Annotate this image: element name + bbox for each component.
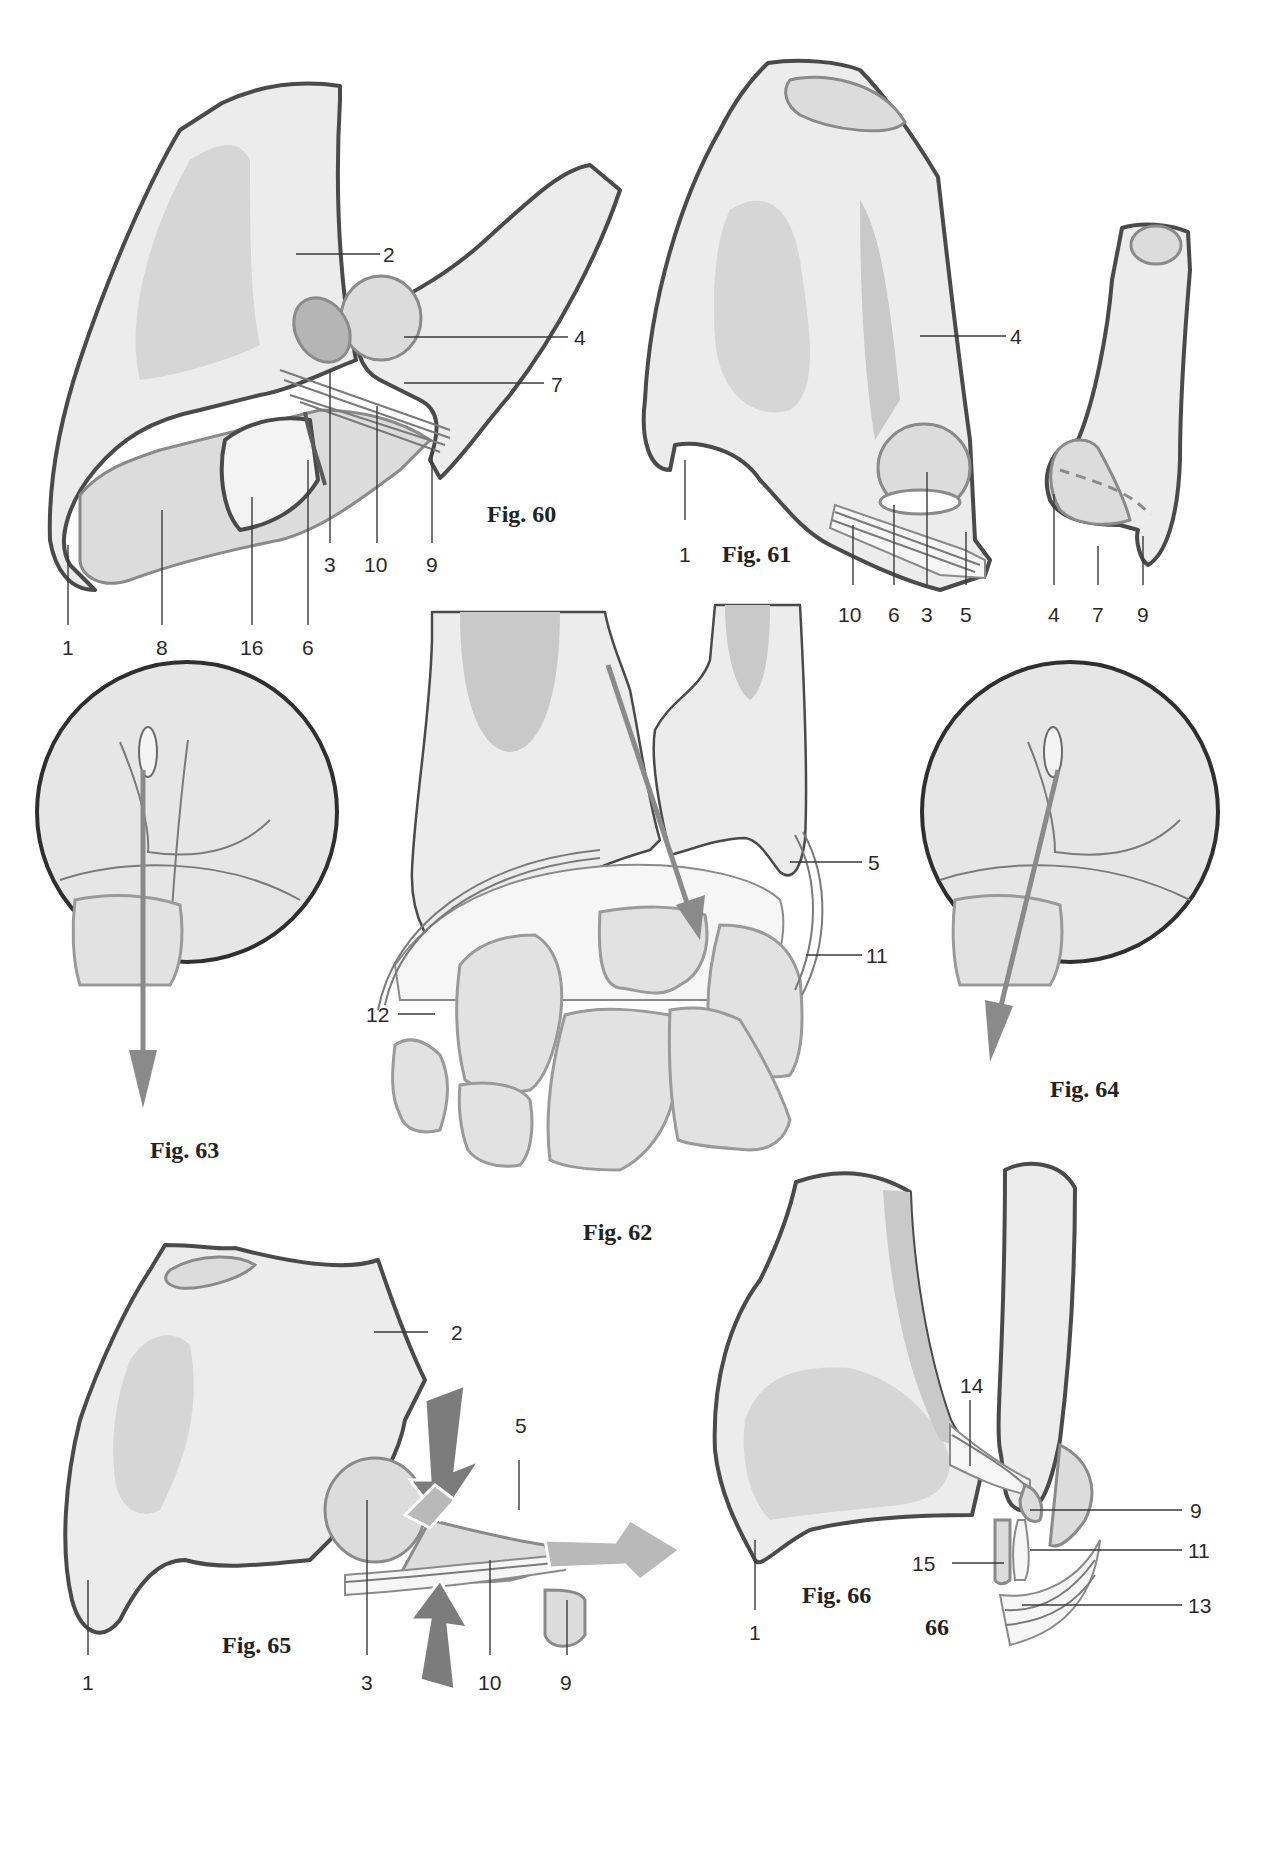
figure-64: Fig. 64: [922, 662, 1218, 1102]
fig64-force-arrow-head: [985, 1000, 1013, 1062]
fig61-caption: Fig. 61: [722, 541, 791, 567]
fig62-tarsal-bone: [459, 1083, 532, 1166]
fig66-label-11: 11: [1188, 1539, 1210, 1562]
fig65-compression-arrow-up: [410, 1580, 468, 1690]
fig64-tendon-loop: [1044, 727, 1062, 777]
fig61-label-4b: 4: [1048, 603, 1060, 626]
fig60-caption: Fig. 60: [487, 501, 556, 527]
fig66-label-14: 14: [960, 1374, 984, 1397]
fig65-label-9: 9: [560, 1671, 572, 1694]
fig61-fibula-medullary: [1131, 226, 1181, 264]
fig66-ligament-11: [1013, 1520, 1029, 1580]
page-number: 66: [925, 1614, 949, 1640]
fig62-tarsal-bone: [548, 1009, 677, 1170]
fig60-label-6: 6: [302, 636, 314, 659]
figure-66: 14 9 11 15 13 1 Fig. 66: [715, 1164, 1212, 1645]
figure-65: 2 5 1 3 10 9 Fig. 65: [65, 1245, 680, 1694]
fig65-label-3: 3: [361, 1671, 373, 1694]
fig65-label-1: 1: [82, 1671, 94, 1694]
fig60-label-1: 1: [62, 636, 74, 659]
fig62-tarsal-bone: [457, 935, 562, 1092]
fig66-tendon-15: [995, 1520, 1010, 1584]
figure-61: 4 1 10 6 3 5 4 7 9 Fig. 61: [644, 61, 1190, 626]
fig61-label-9: 9: [1137, 603, 1149, 626]
fig62-tarsal-bone: [393, 1040, 448, 1132]
figure-62: 5 11 12 Fig. 62: [366, 605, 888, 1245]
fig63-force-arrow-head: [129, 1050, 157, 1108]
fig61-label-7: 7: [1092, 603, 1104, 626]
fig66-label-1: 1: [749, 1621, 761, 1644]
fig65-label-10: 10: [478, 1671, 501, 1694]
fig60-lateral-malleolus-facet: [341, 276, 421, 360]
fig61-label-4: 4: [1010, 325, 1022, 348]
fig63-caption: Fig. 63: [150, 1137, 219, 1163]
fig65-label-5: 5: [515, 1414, 527, 1437]
fig66-caption: Fig. 66: [802, 1582, 871, 1608]
fig61-label-3: 3: [921, 603, 933, 626]
anatomy-plate: 2 4 7 3 10 9 1 8 16 6 Fig. 60: [0, 0, 1265, 1857]
fig62-label-12: 12: [366, 1003, 389, 1026]
fig66-label-13: 13: [1188, 1594, 1211, 1617]
fig63-tarsal-bone: [73, 895, 182, 985]
fig60-label-8: 8: [156, 636, 168, 659]
fig61-label-10: 10: [838, 603, 861, 626]
fig64-caption: Fig. 64: [1050, 1076, 1119, 1102]
fig65-malleolus: [545, 1590, 585, 1646]
fig60-label-3: 3: [324, 553, 336, 576]
fig62-label-11: 11: [866, 944, 888, 967]
figure-60: 2 4 7 3 10 9 1 8 16 6 Fig. 60: [50, 84, 620, 659]
fig61-facet-rim: [880, 490, 960, 514]
fig62-label-5: 5: [868, 851, 880, 874]
fig60-label-7: 7: [551, 373, 563, 396]
fig61-label-1: 1: [679, 543, 691, 566]
fig66-label-9: 9: [1190, 1499, 1202, 1522]
fig65-lateral-arrow: [545, 1520, 680, 1580]
fig65-label-2: 2: [451, 1321, 463, 1344]
fig62-caption: Fig. 62: [583, 1219, 652, 1245]
fig60-label-4: 4: [574, 326, 586, 349]
fig60-label-2: 2: [383, 243, 395, 266]
fig60-label-10: 10: [364, 553, 387, 576]
fig63-tendon-loop: [139, 727, 157, 777]
fig66-label-15: 15: [912, 1552, 935, 1575]
fig61-label-6: 6: [888, 603, 900, 626]
figure-63: Fig. 63: [37, 662, 337, 1163]
fig60-label-16: 16: [240, 636, 263, 659]
fig60-label-9: 9: [426, 553, 438, 576]
fig65-caption: Fig. 65: [222, 1632, 291, 1658]
fig61-label-5: 5: [960, 603, 972, 626]
